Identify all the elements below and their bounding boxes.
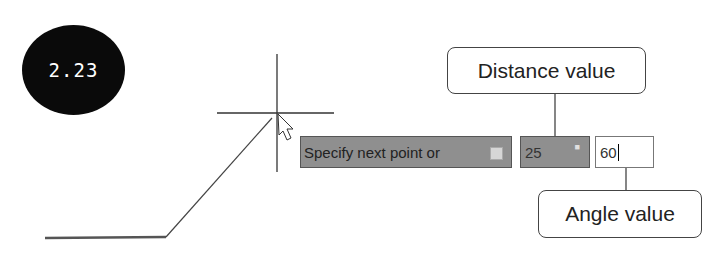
distance-callout-label: Distance value	[478, 59, 616, 83]
angle-callout-label: Angle value	[565, 202, 675, 226]
angle-callout: Angle value	[538, 190, 702, 238]
prompt-text: Specify next point or	[304, 144, 440, 161]
angle-input[interactable]: 60	[595, 136, 654, 168]
drawn-polyline	[45, 118, 272, 238]
down-arrow-icon[interactable]	[490, 147, 503, 160]
pointer-arrow-icon	[278, 114, 293, 140]
angle-value: 60	[600, 144, 617, 161]
distance-callout: Distance value	[447, 47, 646, 94]
distance-input[interactable]: 25 ■	[520, 136, 590, 168]
dynamic-input-prompt: Specify next point or	[300, 136, 512, 168]
text-caret	[618, 144, 620, 161]
lock-icon: ■	[575, 142, 580, 152]
distance-value: 25	[525, 144, 542, 161]
